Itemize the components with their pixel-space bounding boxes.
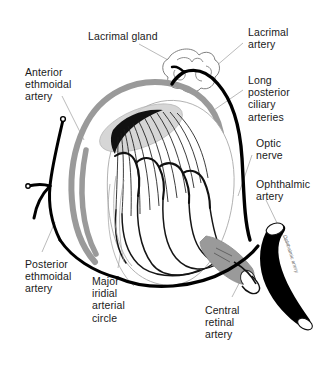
posterior-ethmoidal-cut-end	[26, 184, 30, 188]
label-lacrimal-artery: Lacrimal artery	[248, 26, 288, 50]
label-optic-nerve: Optic nerve	[256, 137, 283, 161]
label-lacrimal-gland: Lacrimal gland	[88, 30, 158, 42]
label-central-retinal-artery: Central retinal artery	[205, 304, 240, 341]
anatomical-figure: Lacrimal gland Lacrimal artery Long post…	[0, 0, 328, 369]
label-long-posterior-ciliary-arteries: Long posterior ciliary arteries	[248, 74, 290, 123]
anterior-ethmoidal-cut-end	[61, 117, 66, 122]
leader-lacrimal-gland	[139, 44, 168, 60]
label-anterior-ethmoidal-artery: Anterior ethmoidal artery	[25, 66, 71, 103]
label-ophthalmic-artery: Ophthalmic artery	[256, 178, 310, 202]
label-major-iridial-arterial-circle: Major iridial arterial circle	[92, 275, 125, 324]
label-posterior-ethmoidal-artery: Posterior ethmoidal artery	[25, 258, 71, 295]
